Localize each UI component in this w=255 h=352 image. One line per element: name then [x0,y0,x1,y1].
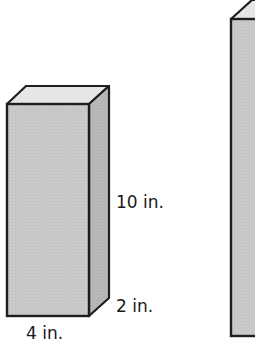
rectangular-prism-b [231,0,255,336]
height-label: 10 in. [116,194,164,211]
depth-label: 2 in. [116,298,153,315]
width-label: 4 in. [26,325,63,342]
prism-b-top-face [231,0,255,19]
rectangular-prism-a [7,86,109,316]
